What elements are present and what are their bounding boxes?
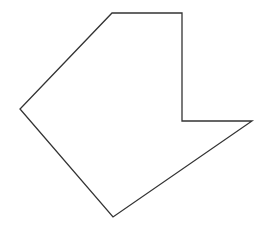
diagram-canvas (0, 0, 269, 242)
polygon-shape (20, 13, 252, 217)
polygon-diagram (0, 0, 269, 242)
